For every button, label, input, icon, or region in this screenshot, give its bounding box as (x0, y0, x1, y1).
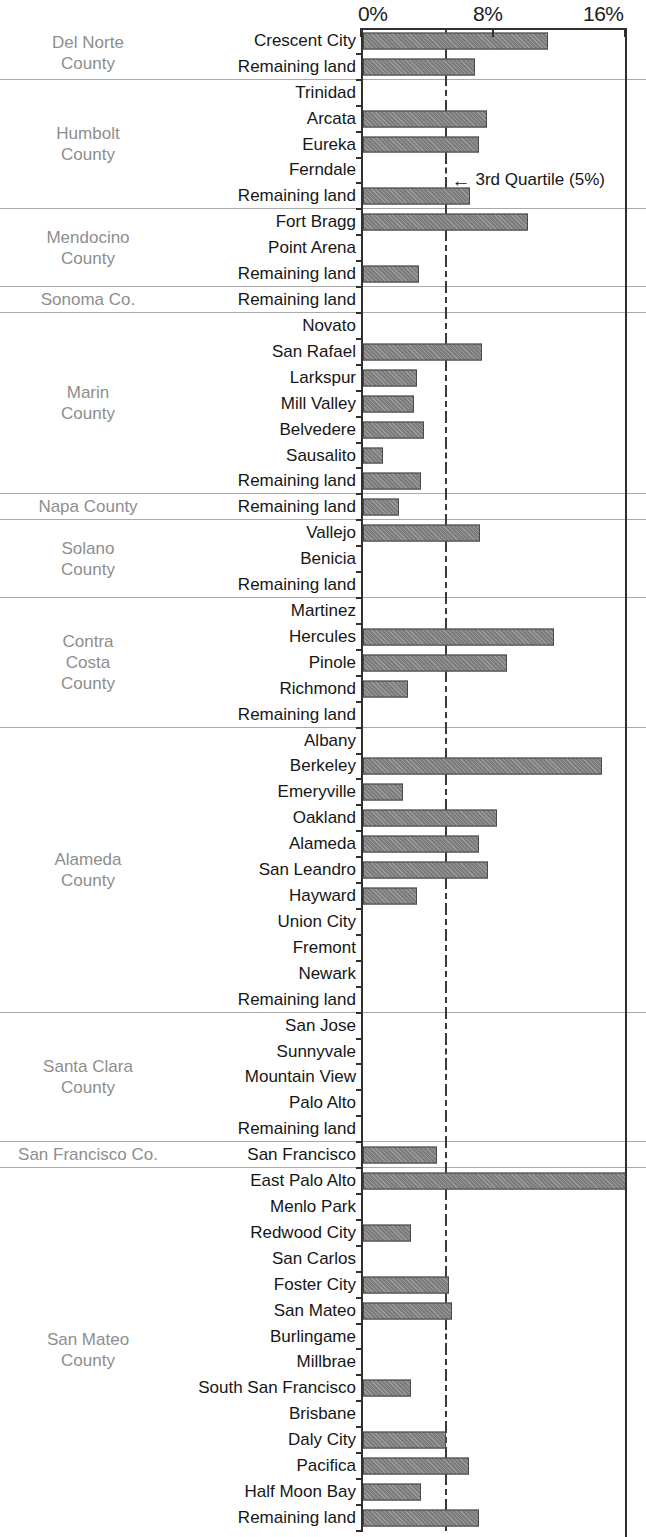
row-label: Ferndale (176, 161, 361, 179)
bar[interactable] (363, 888, 417, 905)
chart-row[interactable]: Benicia (176, 546, 646, 572)
chart-row[interactable]: Vallejo (176, 520, 646, 546)
chart-row[interactable]: Remaining land (176, 702, 646, 728)
bar[interactable] (363, 628, 554, 645)
bar[interactable] (363, 862, 488, 879)
bar[interactable] (363, 266, 419, 283)
chart-row[interactable]: Crescent City (176, 28, 646, 54)
chart-row[interactable]: Trinidad (176, 80, 646, 106)
bar[interactable] (363, 1147, 437, 1164)
chart-row[interactable]: Emeryville (176, 779, 646, 805)
bar[interactable] (363, 136, 479, 153)
bar[interactable] (363, 1432, 446, 1449)
chart-row[interactable]: Fremont (176, 935, 646, 961)
chart-row[interactable]: Remaining land (176, 572, 646, 598)
bar[interactable] (363, 395, 414, 412)
chart-row[interactable]: San Mateo (176, 1298, 646, 1324)
bar[interactable] (363, 1484, 421, 1501)
bar[interactable] (363, 214, 528, 231)
chart-row[interactable]: San Jose (176, 1013, 646, 1039)
row-label: Remaining land (176, 187, 361, 205)
chart-row[interactable]: East Palo Alto (176, 1168, 646, 1194)
chart-row[interactable]: Union City (176, 909, 646, 935)
chart-row[interactable]: San Leandro (176, 857, 646, 883)
bar[interactable] (363, 447, 383, 464)
chart-row[interactable]: Mountain View (176, 1064, 646, 1090)
bar[interactable] (363, 1380, 411, 1397)
chart-row[interactable]: Newark (176, 961, 646, 987)
chart-row[interactable]: San Francisco (176, 1142, 646, 1168)
quartile-reference-line (445, 598, 447, 624)
chart-row[interactable]: Redwood City (176, 1220, 646, 1246)
chart-row[interactable]: Remaining land (176, 287, 646, 313)
bar[interactable] (363, 1276, 449, 1293)
chart-row[interactable]: Point Arena (176, 235, 646, 261)
chart-row[interactable]: Pacifica (176, 1453, 646, 1479)
bar[interactable] (363, 473, 421, 490)
bar[interactable] (363, 758, 602, 775)
chart-row[interactable]: Millbrae (176, 1349, 646, 1375)
bar[interactable] (363, 784, 403, 801)
bar[interactable] (363, 369, 417, 386)
bar[interactable] (363, 1302, 452, 1319)
chart-row[interactable]: Remaining land (176, 468, 646, 494)
chart-row[interactable]: Remaining land (176, 1116, 646, 1142)
plot-cell (361, 261, 646, 287)
chart-row[interactable]: Sausalito (176, 443, 646, 469)
bar[interactable] (363, 343, 482, 360)
plot-cell (361, 728, 646, 754)
bar[interactable] (363, 654, 507, 671)
chart-row[interactable]: Burlingame (176, 1324, 646, 1350)
chart-row[interactable]: Brisbane (176, 1401, 646, 1427)
chart-row[interactable]: Fort Bragg (176, 209, 646, 235)
chart-row[interactable]: Novato (176, 313, 646, 339)
bar[interactable] (363, 33, 548, 50)
chart-row[interactable]: Hayward (176, 883, 646, 909)
chart-row[interactable]: Remaining land (176, 54, 646, 80)
chart-row[interactable]: Hercules (176, 624, 646, 650)
county-label-line: Sonoma Co. (41, 289, 136, 310)
bar[interactable] (363, 1173, 627, 1190)
bar[interactable] (363, 58, 475, 75)
plot-cell (361, 546, 646, 572)
chart-row[interactable]: Alameda (176, 831, 646, 857)
quartile-reference-line (445, 1116, 447, 1142)
chart-row[interactable]: Martinez (176, 598, 646, 624)
bar[interactable] (363, 421, 424, 438)
bar[interactable] (363, 499, 399, 516)
chart-row[interactable]: Remaining land (176, 261, 646, 287)
quartile-reference-line (445, 235, 447, 261)
chart-row[interactable]: Remaining land (176, 494, 646, 520)
bar[interactable] (363, 525, 480, 542)
chart-row[interactable]: Oakland (176, 805, 646, 831)
bar[interactable] (363, 810, 497, 827)
chart-row[interactable]: Daly City (176, 1427, 646, 1453)
chart-row[interactable]: Menlo Park (176, 1194, 646, 1220)
chart-row[interactable]: Albany (176, 728, 646, 754)
chart-row[interactable]: Half Moon Bay (176, 1479, 646, 1505)
chart-row[interactable]: Mill Valley (176, 391, 646, 417)
chart-row[interactable]: Foster City (176, 1272, 646, 1298)
row-label: Fort Bragg (176, 213, 361, 231)
chart-row[interactable]: Remaining land (176, 1505, 646, 1531)
bar[interactable] (363, 110, 487, 127)
chart-row[interactable]: San Carlos (176, 1246, 646, 1272)
bar[interactable] (363, 1224, 411, 1241)
chart-row[interactable]: Palo Alto (176, 1090, 646, 1116)
chart-row[interactable]: Sunnyvale (176, 1039, 646, 1065)
chart-row[interactable]: South San Francisco (176, 1375, 646, 1401)
chart-row[interactable]: Pinole (176, 650, 646, 676)
chart-row[interactable]: Arcata (176, 106, 646, 132)
bar[interactable] (363, 1509, 479, 1526)
chart-row[interactable]: Eureka (176, 132, 646, 158)
bar[interactable] (363, 1458, 469, 1475)
bar[interactable] (363, 836, 479, 853)
chart-row[interactable]: Berkeley (176, 754, 646, 780)
chart-row[interactable]: Larkspur (176, 365, 646, 391)
chart-row[interactable]: Richmond (176, 676, 646, 702)
chart-row[interactable]: Remaining land (176, 987, 646, 1013)
chart-row[interactable]: San Rafael (176, 339, 646, 365)
chart-row[interactable]: Belvedere (176, 417, 646, 443)
row-label: South San Francisco (176, 1379, 361, 1397)
bar[interactable] (363, 680, 408, 697)
